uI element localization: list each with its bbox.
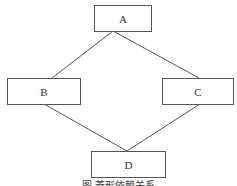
node-b: B (7, 78, 81, 105)
node-c: C (162, 78, 234, 105)
node-a: A (94, 5, 152, 32)
edge-a-c (113, 31, 199, 78)
node-d: D (91, 151, 166, 178)
edge-c-d (127, 104, 200, 151)
node-a-label: A (119, 13, 127, 25)
node-c-label: C (194, 86, 201, 98)
node-d-label: D (125, 159, 133, 171)
figure-caption: 图 菱形依赖关系 (0, 180, 237, 186)
node-b-label: B (40, 86, 47, 98)
edge-b-d (44, 104, 127, 151)
edge-a-b (52, 31, 113, 78)
